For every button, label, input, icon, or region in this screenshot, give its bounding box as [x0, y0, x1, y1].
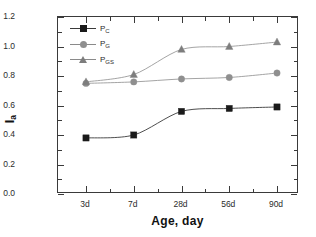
- legend: PC PG PGS: [70, 23, 114, 65]
- x-tick-label: 90d: [269, 199, 283, 209]
- legend-label-pg: PG: [100, 39, 110, 49]
- chart-figure: Ia Age, day 0.00.20.40.60.81.01.2 3d7d28…: [0, 0, 316, 237]
- marker-circle: [178, 76, 184, 82]
- legend-item-pc[interactable]: PC: [70, 23, 114, 34]
- series-pg: [83, 70, 280, 87]
- marker-square: [274, 104, 280, 110]
- y-tick-major-right: [291, 194, 297, 195]
- y-tick-label: 0.0: [0, 188, 15, 198]
- marker-circle: [131, 79, 137, 85]
- y-axis-title-main: I: [3, 119, 17, 123]
- square-icon: [80, 25, 87, 32]
- x-tick-label: 3d: [80, 199, 89, 209]
- plot-area: PC PG PGS: [57, 16, 298, 193]
- y-axis-title-sub: a: [8, 114, 18, 119]
- legend-swatch-pc: [70, 23, 96, 34]
- marker-circle: [274, 70, 280, 76]
- marker-square: [226, 105, 232, 111]
- legend-item-pgs[interactable]: PGS: [70, 54, 114, 65]
- triangle-icon: [79, 56, 87, 63]
- x-tick-label: 56d: [221, 199, 235, 209]
- y-tick-label: 0.8: [0, 70, 15, 80]
- marker-square: [131, 132, 137, 138]
- legend-label-pgs: PGS: [100, 55, 114, 65]
- y-tick-major: [58, 194, 64, 195]
- legend-swatch-pgs: [70, 54, 96, 65]
- marker-circle: [226, 74, 232, 80]
- y-tick-label: 1.2: [0, 11, 15, 21]
- marker-square: [178, 108, 184, 114]
- x-tick-label: 28d: [173, 199, 187, 209]
- legend-swatch-pg: [70, 39, 96, 50]
- x-tick-label: 7d: [128, 199, 137, 209]
- y-tick-label: 1.0: [0, 41, 15, 51]
- marker-square: [83, 135, 89, 141]
- series-pc: [83, 104, 280, 141]
- y-tick-label: 0.2: [0, 159, 15, 169]
- y-tick-label: 0.4: [0, 129, 15, 139]
- legend-item-pg[interactable]: PG: [70, 39, 114, 50]
- y-axis-title: Ia: [3, 114, 18, 123]
- circle-icon: [80, 41, 87, 48]
- legend-label-pc: PC: [100, 24, 110, 34]
- marker-triangle: [273, 38, 280, 45]
- y-tick-label: 0.6: [0, 100, 15, 110]
- x-axis-title: Age, day: [57, 214, 298, 228]
